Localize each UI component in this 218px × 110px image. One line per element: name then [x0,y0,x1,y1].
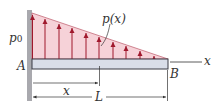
point-b-label: B [170,68,179,80]
x-dimension-label: x [63,85,70,97]
beam [32,59,168,69]
p0-label: p0 [9,32,22,44]
px-label: p(x) [102,13,126,25]
distributed-load [32,13,168,59]
L-dimension-label: L [95,91,103,103]
point-a-label: A [17,60,26,72]
fixed-support-wall [27,10,32,101]
x-axis-label: x [204,55,211,67]
